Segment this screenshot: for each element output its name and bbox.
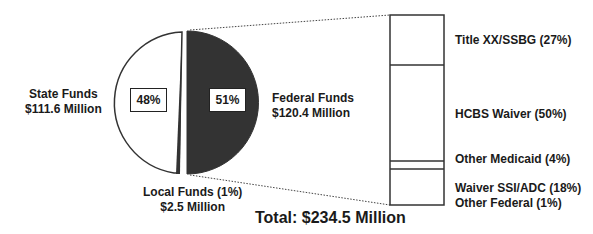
- bar-label-other-medicaid: Other Medicaid (4%): [455, 152, 570, 167]
- state-funds-label: State Funds $111.6 Million: [25, 87, 102, 117]
- local-funds-label: Local Funds (1%) $2.5 Million: [143, 185, 242, 215]
- federal-funds-label: Federal Funds $120.4 Million: [272, 91, 354, 121]
- stacked-bar: [390, 15, 444, 205]
- federal-pct-box: 51%: [209, 88, 246, 112]
- bar-label-title-xx: Title XX/SSBG (27%): [455, 33, 571, 48]
- bar-label-hcbs: HCBS Waiver (50%): [455, 107, 567, 122]
- connector-top: [190, 15, 390, 30]
- bar-label-other-federal: Other Federal (1%): [455, 196, 562, 211]
- bar-label-waiver-ssi: Waiver SSI/ADC (18%): [455, 181, 581, 196]
- total-label: Total: $234.5 Million: [255, 209, 406, 227]
- state-pct-box: 48%: [130, 88, 167, 112]
